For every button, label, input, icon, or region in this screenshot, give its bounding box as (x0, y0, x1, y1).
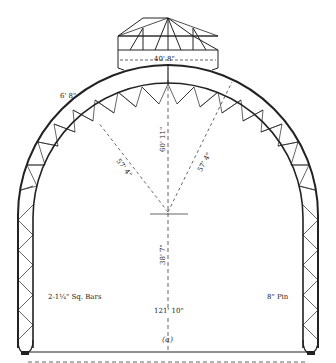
spring-height-label: 38' 7" (160, 244, 167, 265)
total-span-label: 121' 10" (152, 308, 186, 315)
lantern-span-label: 40' 8" (154, 56, 175, 63)
tie-bars-label: 2-1¼" Sq. Bars (48, 294, 101, 301)
truss-depth-label: 6' 8" (60, 93, 76, 100)
rise-label: 60' 11" (160, 127, 167, 152)
figure-caption: (a) (162, 336, 173, 344)
pin-label: 8" Pin (267, 294, 288, 301)
